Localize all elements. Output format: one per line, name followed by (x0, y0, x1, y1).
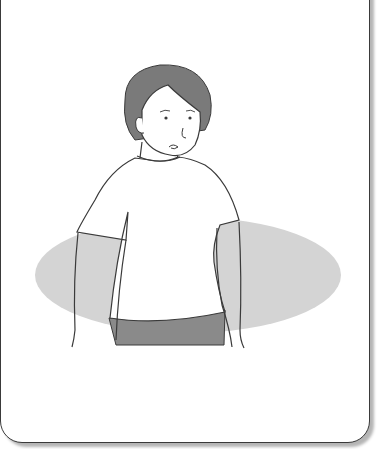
eye-left (164, 116, 167, 119)
eye-right (188, 116, 191, 119)
person-illustration (0, 0, 383, 449)
